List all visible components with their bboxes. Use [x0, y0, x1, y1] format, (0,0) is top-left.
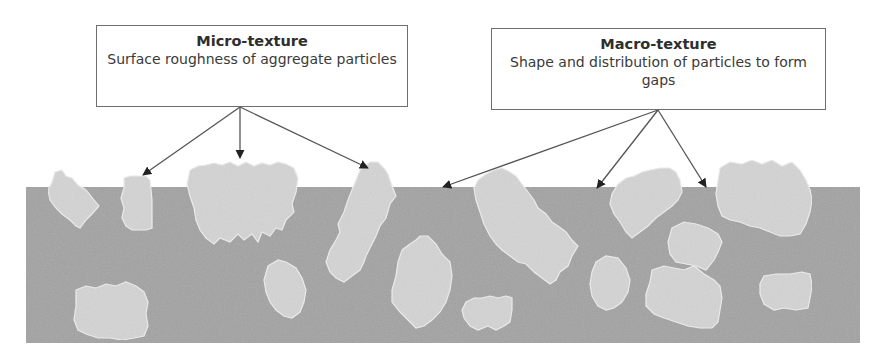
macro-texture-description: Shape and distribution of particles to f…: [492, 53, 825, 89]
aggregate-particle: [760, 272, 812, 310]
aggregate-particle: [462, 296, 512, 330]
micro-texture-label-box: Micro-texture Surface roughness of aggre…: [96, 25, 408, 107]
macro-texture-label-box: Macro-texture Shape and distribution of …: [491, 28, 826, 110]
macro-arrow-left: [443, 110, 658, 187]
micro-texture-description: Surface roughness of aggregate particles: [97, 50, 407, 68]
aggregate-particle: [74, 282, 148, 340]
micro-texture-title: Micro-texture: [97, 32, 407, 50]
macro-texture-title: Macro-texture: [492, 35, 825, 53]
aggregate-particle: [121, 176, 152, 230]
micro-arrow-right: [240, 107, 368, 168]
